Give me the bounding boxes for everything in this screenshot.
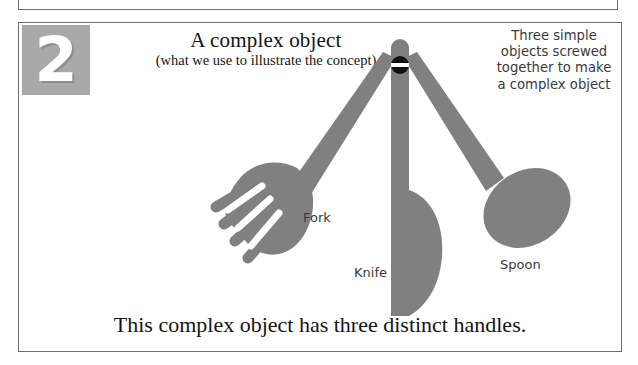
annotation-note: Three simple objects screwed together to… <box>495 28 613 93</box>
panel-caption: This complex object has three distinct h… <box>20 312 620 338</box>
label-fork: Fork <box>303 211 331 225</box>
page-subtitle: (what we use to illustrate the concept) <box>96 52 436 69</box>
panel-number-text: 2 <box>22 29 90 91</box>
label-spoon: Spoon <box>500 258 541 272</box>
label-knife: Knife <box>354 266 387 280</box>
previous-panel-edge <box>18 0 618 10</box>
title-block: A complex object (what we use to illustr… <box>96 28 436 69</box>
page-title: A complex object <box>96 28 436 52</box>
slide-page: 2 A complex object (what we use to illus… <box>0 0 638 365</box>
panel-number-badge: 2 <box>22 25 90 95</box>
